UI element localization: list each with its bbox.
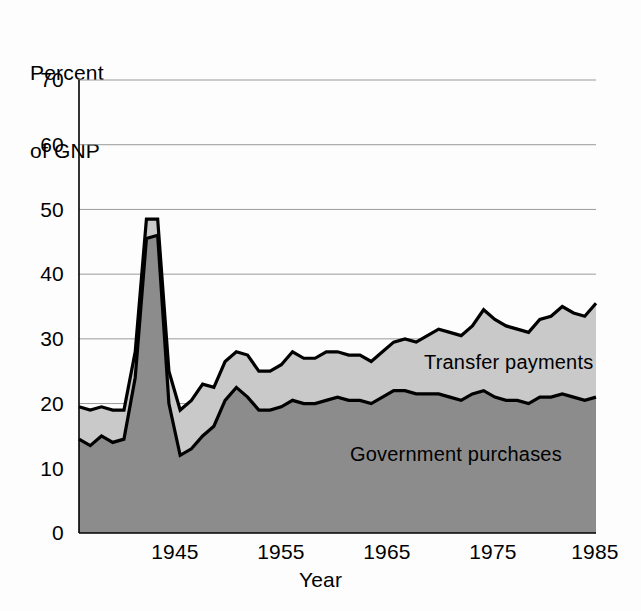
- x-tick-1965: 1965: [352, 540, 422, 564]
- series-label-transfer-payments: Transfer payments: [424, 351, 593, 374]
- chart-canvas: [0, 0, 641, 611]
- series-label-government-purchases: Government purchases: [350, 443, 562, 466]
- x-tick-1955: 1955: [246, 540, 316, 564]
- chart-figure: Percent of GNP 70 60 50 40 30 20 10 0 Tr…: [0, 0, 641, 611]
- x-tick-1975: 1975: [458, 540, 528, 564]
- x-tick-1985: 1985: [560, 540, 630, 564]
- area-series: [79, 219, 596, 533]
- x-tick-1945: 1945: [140, 540, 210, 564]
- x-axis-title: Year: [0, 568, 641, 592]
